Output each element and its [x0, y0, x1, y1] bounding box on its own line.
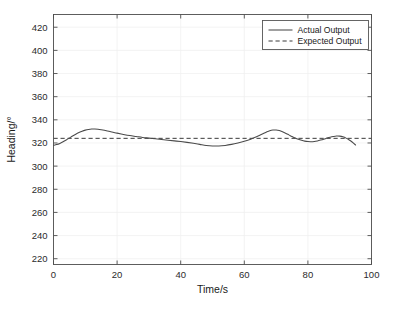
y-tick-label: 260 — [32, 207, 48, 218]
legend-label-expected-output: Expected Output — [298, 36, 363, 46]
x-tick-label: 60 — [239, 269, 250, 280]
x-tick-label: 20 — [112, 269, 123, 280]
y-tick-label: 400 — [32, 45, 48, 56]
chart-legend: Actual Output Expected Output — [263, 21, 369, 50]
y-tick-label: 360 — [32, 91, 48, 102]
x-tick-label: 0 — [51, 269, 56, 280]
y-tick-label: 220 — [32, 253, 48, 264]
y-tick-label: 320 — [32, 137, 48, 148]
x-axis-title: Time/s — [197, 283, 228, 295]
y-tick-label: 380 — [32, 68, 48, 79]
chart-figure: 2202402602803003203403603804004200204060… — [0, 0, 396, 315]
y-tick-label: 280 — [32, 184, 48, 195]
line-chart: 2202402602803003203403603804004200204060… — [0, 0, 396, 315]
legend-label-actual-output: Actual Output — [298, 25, 351, 35]
y-tick-label: 300 — [32, 161, 48, 172]
x-tick-label: 80 — [303, 269, 314, 280]
y-axis-title: Heading/° — [5, 116, 17, 162]
y-tick-label: 420 — [32, 22, 48, 33]
y-tick-label: 240 — [32, 230, 48, 241]
x-tick-label: 40 — [175, 269, 186, 280]
x-tick-label: 100 — [364, 269, 380, 280]
y-tick-label: 340 — [32, 114, 48, 125]
